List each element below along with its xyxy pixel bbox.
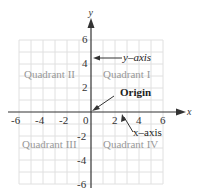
y-tick: -4 — [77, 154, 87, 166]
y-axis-label: y — [88, 7, 94, 18]
x-axis-arrow-icon — [176, 109, 186, 116]
y-tick: -2 — [77, 130, 86, 142]
y-axis-annotation: y–axis — [93, 51, 151, 63]
origin-annotation-label: Origin — [120, 86, 151, 98]
quadrant-ii-label: Quadrant II — [24, 68, 75, 80]
x-tick: -6 — [11, 114, 21, 126]
axes — [8, 18, 186, 188]
x-axis-label: x — [186, 106, 192, 117]
coordinate-plane: x y -6 -4 -2 0 2 4 6 6 4 2 -2 -4 -6 Quad… — [0, 0, 202, 195]
arrow-icon — [93, 56, 100, 61]
x-tick: 4 — [136, 114, 142, 126]
quadrant-iii-label: Quadrant III — [22, 138, 77, 150]
x-tick: -2 — [59, 114, 68, 126]
y-tick: 4 — [82, 57, 88, 69]
x-tick: 6 — [160, 114, 166, 126]
x-tick: -4 — [35, 114, 45, 126]
y-axis-arrow-icon — [88, 18, 95, 28]
y-tick: 2 — [82, 81, 88, 93]
y-tick: 6 — [82, 33, 88, 45]
arrow-icon — [121, 114, 126, 122]
origin-annotation: Origin — [92, 86, 151, 111]
y-axis-annotation-label: y–axis — [122, 51, 151, 63]
y-tick: -6 — [77, 178, 87, 190]
x-tick: 2 — [112, 114, 118, 126]
quadrant-iv-label: Quadrant IV — [103, 138, 158, 150]
x-axis-annotation-label: x–axis — [133, 126, 162, 138]
quadrant-i-label: Quadrant I — [103, 68, 151, 80]
x-tick: 0 — [83, 114, 89, 126]
